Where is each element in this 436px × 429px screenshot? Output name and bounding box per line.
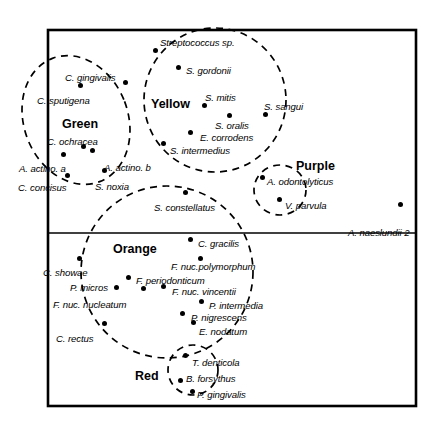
complex-label-red: Red	[135, 370, 159, 383]
species-label: S. gordonii	[186, 66, 231, 76]
species-label: A. actino. b	[104, 163, 151, 173]
species-dot	[202, 103, 207, 108]
species-label: F. nuc.polymorphum	[171, 262, 255, 272]
species-dot	[176, 65, 181, 70]
species-dot	[188, 237, 193, 242]
species-dot	[81, 144, 86, 149]
species-label: A. naeslundii 2	[348, 228, 409, 238]
microbial-complexes-diagram: GreenYellowPurpleOrangeRedStreptococcus …	[0, 0, 436, 429]
species-label: B. forsythus	[186, 374, 235, 384]
species-label: E. nodatum	[199, 327, 247, 337]
species-label: A. odontolyticus	[267, 177, 333, 187]
species-dot	[190, 389, 195, 394]
species-dot	[123, 80, 128, 85]
complex-label-green: Green	[62, 118, 98, 131]
species-dot	[183, 190, 188, 195]
species-dot	[198, 256, 203, 261]
species-dot	[126, 275, 131, 280]
species-label: F. periodonticum	[136, 276, 205, 286]
species-label: Streptococcus sp.	[160, 38, 235, 48]
species-label: P. intermedia	[209, 301, 263, 311]
species-label: F. nuc. vincentii	[172, 287, 236, 297]
species-label: S. constellatus	[154, 203, 215, 213]
species-label: C. gracilis	[198, 239, 239, 249]
species-label: S. oralis	[215, 121, 249, 131]
species-dot	[260, 175, 265, 180]
species-dot	[277, 197, 282, 202]
diagram-frame	[48, 30, 416, 406]
species-label: P. gingivalis	[197, 390, 246, 400]
species-dot	[61, 152, 66, 157]
complex-label-yellow: Yellow	[151, 98, 190, 111]
species-label: C. gingivalis	[65, 73, 115, 83]
species-label: F. nuc. nucleatum	[53, 300, 126, 310]
species-label: C. rectus	[56, 334, 94, 344]
complex-label-purple: Purple	[296, 160, 335, 173]
species-dot	[191, 320, 196, 325]
complex-label-orange: Orange	[113, 243, 157, 256]
complex-boundary-red	[168, 345, 218, 395]
species-label: C. ochracea	[47, 137, 98, 147]
species-label: V. parvula	[285, 201, 326, 211]
species-dot	[398, 202, 403, 207]
species-dot	[90, 148, 95, 153]
species-label: P. micros	[70, 283, 108, 293]
species-dot	[183, 353, 188, 358]
species-dot	[263, 112, 268, 117]
species-dot	[102, 168, 107, 173]
species-label: T. denticola	[192, 358, 240, 368]
species-label: C. concisus	[18, 183, 67, 193]
species-label: S. noxia	[95, 182, 129, 192]
species-dot	[114, 285, 119, 290]
species-dot	[161, 141, 166, 146]
species-dot	[180, 311, 185, 316]
species-dot	[77, 256, 82, 261]
species-label: P. nigrescens	[191, 313, 247, 323]
species-dot	[78, 83, 83, 88]
species-dot	[199, 299, 204, 304]
species-label: C. showae	[43, 268, 87, 278]
species-dot	[188, 130, 193, 135]
species-dot	[141, 286, 146, 291]
species-dot	[178, 378, 183, 383]
species-dot	[153, 48, 158, 53]
species-label: C. sputigena	[37, 96, 90, 106]
species-dot	[227, 113, 232, 118]
species-label: S. sangui	[264, 102, 303, 112]
species-dot	[161, 284, 166, 289]
species-label: S. intermedius	[170, 146, 230, 156]
species-label: S. mitis	[205, 93, 236, 103]
species-label: A. actino. a	[19, 164, 66, 174]
species-dot	[102, 321, 107, 326]
species-label: E. corrodens	[200, 133, 253, 143]
species-dot	[65, 173, 70, 178]
